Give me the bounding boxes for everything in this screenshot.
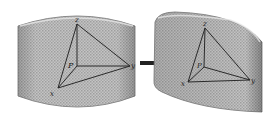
right-label-z: z — [202, 20, 207, 28]
left-label-z: z — [74, 16, 79, 24]
diagram-canvas: z y x P z y x P — [0, 0, 276, 125]
left-label-p: P — [67, 61, 74, 70]
right-surface-patch — [154, 12, 262, 112]
left-label-x: x — [50, 90, 54, 98]
right-label-x: x — [181, 80, 185, 88]
right-label-p: P — [196, 62, 202, 70]
